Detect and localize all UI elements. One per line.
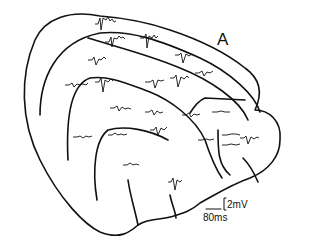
panel-label: A — [217, 30, 228, 50]
gyrus-line-9 — [170, 195, 176, 218]
time-scale-label: 80ms — [203, 212, 227, 223]
gyrus-line-7 — [218, 130, 230, 175]
gyrus-line-5 — [128, 180, 138, 225]
gyrus-line-6 — [190, 98, 245, 113]
voltage-scale-label: 2mV — [227, 199, 248, 210]
voltage-scale-bar — [224, 198, 226, 210]
gyrus-line-3 — [68, 77, 222, 178]
